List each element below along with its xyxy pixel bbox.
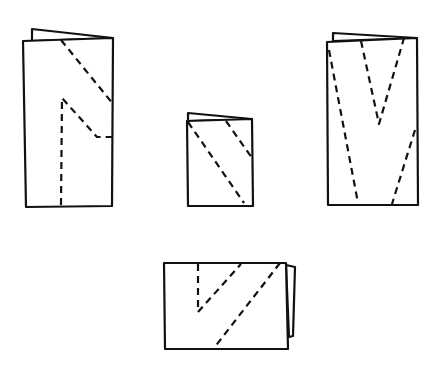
front-sheet: [327, 38, 418, 205]
shape-tall-right: [327, 33, 418, 205]
shape-tall-left: [23, 29, 113, 207]
folded-paper-diagram: [0, 0, 442, 369]
front-sheet: [23, 38, 113, 207]
shape-wide-bottom: [164, 263, 295, 349]
shape-small-center: [187, 113, 253, 206]
front-sheet: [187, 119, 253, 206]
